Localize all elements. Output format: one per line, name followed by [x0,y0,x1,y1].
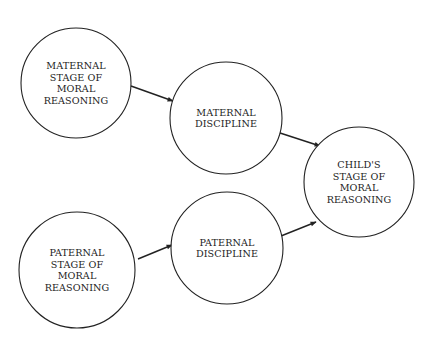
node-label-line: STAGE OF [333,171,385,183]
node-label-line: PATERNAL [199,237,254,249]
node-label-childs-stage: CHILD'SSTAGE OFMORALREASONING [304,127,414,237]
node-label-line: MATERNAL [196,107,255,119]
node-label-line: STAGE OF [50,72,102,84]
arrow-paternal-stage-to-paternal-discipline [138,245,172,259]
node-label-line: DISCIPLINE [195,118,257,130]
node-label-paternal-stage: PATERNALSTAGE OFMORALREASONING [19,212,135,328]
node-label-line: REASONING [44,95,109,107]
node-label-line: MORAL [57,83,96,95]
node-label-maternal-stage: MATERNALSTAGE OFMORALREASONING [21,28,131,138]
node-label-line: REASONING [45,282,110,294]
node-label-line: PATERNAL [49,247,104,259]
node-label-maternal-discipline: MATERNALDISCIPLINE [170,62,282,174]
node-label-line: MORAL [340,182,379,194]
node-label-line: MORAL [58,270,97,282]
node-label-line: REASONING [327,194,392,206]
node-label-paternal-discipline: PATERNALDISCIPLINE [171,192,283,304]
node-label-line: DISCIPLINE [196,248,258,260]
arrow-maternal-stage-to-maternal-discipline [131,86,173,101]
node-label-line: MATERNAL [46,60,105,72]
node-label-line: STAGE OF [51,259,103,271]
node-label-line: CHILD'S [337,159,380,171]
